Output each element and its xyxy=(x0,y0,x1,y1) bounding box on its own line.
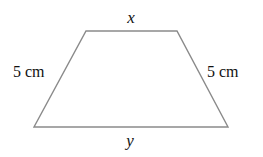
left-side-label: 5 cm xyxy=(13,63,45,80)
right-side-label: 5 cm xyxy=(207,63,239,80)
trapezoid-shape xyxy=(34,31,228,127)
bottom-side-label: y xyxy=(124,131,134,150)
top-side-label: x xyxy=(126,8,135,27)
trapezoid-diagram: x y 5 cm 5 cm xyxy=(0,0,263,157)
